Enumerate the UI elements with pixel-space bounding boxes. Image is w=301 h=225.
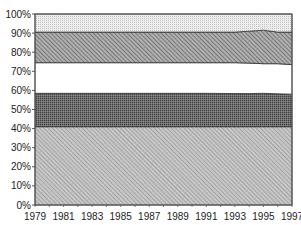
x-axis-labels: 1979198119831985198719891991199319951997 [24, 211, 301, 222]
y-tick-label: 60% [11, 85, 31, 96]
x-tick-label: 1995 [252, 211, 275, 222]
x-tick-label: 1983 [81, 211, 104, 222]
stacked-area-chart: 0%10%20%30%40%50%60%70%80%90%100% 197919… [0, 0, 301, 225]
y-tick-label: 0% [17, 200, 32, 211]
y-tick-label: 40% [11, 123, 31, 134]
area-band-3 [35, 63, 292, 94]
x-tick-label: 1991 [195, 211, 218, 222]
y-axis-labels: 0%10%20%30%40%50%60%70%80%90%100% [5, 9, 31, 211]
x-tick-label: 1987 [138, 211, 161, 222]
area-band-1 [35, 127, 292, 205]
x-tick-label: 1981 [52, 211, 75, 222]
x-tick-label: 1997 [281, 211, 301, 222]
y-tick-label: 100% [5, 9, 31, 20]
area-band-5 [35, 14, 292, 32]
area-bands [35, 14, 292, 205]
x-tick-label: 1993 [224, 211, 247, 222]
y-tick-label: 50% [11, 104, 31, 115]
area-band-4 [35, 30, 292, 64]
area-band-2 [35, 93, 292, 126]
y-tick-label: 70% [11, 66, 31, 77]
x-tick-label: 1989 [167, 211, 190, 222]
y-tick-label: 20% [11, 161, 31, 172]
y-tick-label: 10% [11, 180, 31, 191]
x-tick-label: 1979 [24, 211, 47, 222]
x-tick-label: 1985 [110, 211, 133, 222]
y-tick-label: 90% [11, 28, 31, 39]
y-tick-label: 80% [11, 47, 31, 58]
y-tick-label: 30% [11, 142, 31, 153]
